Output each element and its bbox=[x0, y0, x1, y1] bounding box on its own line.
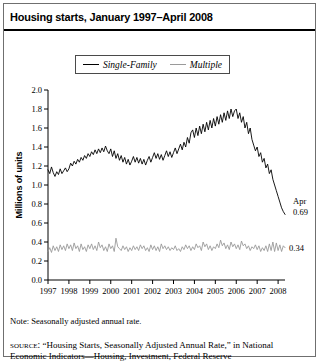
svg-text:0.4: 0.4 bbox=[31, 237, 42, 247]
svg-text:2006: 2006 bbox=[228, 286, 245, 296]
svg-text:2007: 2007 bbox=[249, 286, 266, 296]
title-block: Housing starts, January 1997–April 2008 bbox=[4, 4, 315, 29]
svg-text:1998: 1998 bbox=[60, 286, 77, 296]
chart-canvas: 0.00.20.40.60.81.01.21.41.61.82.01997199… bbox=[0, 84, 319, 314]
svg-text:0.2: 0.2 bbox=[31, 256, 42, 266]
svg-text:2000: 2000 bbox=[102, 286, 119, 296]
chart-source: source: “Housing Starts, Seasonally Adju… bbox=[10, 340, 310, 362]
svg-text:0.6: 0.6 bbox=[31, 218, 42, 228]
svg-text:1999: 1999 bbox=[81, 286, 98, 296]
source-text: “Housing Starts, Seasonally Adjusted Ann… bbox=[10, 340, 273, 361]
svg-text:2008: 2008 bbox=[270, 286, 287, 296]
svg-text:0.8: 0.8 bbox=[31, 199, 42, 209]
svg-text:2002: 2002 bbox=[144, 286, 161, 296]
svg-text:2003: 2003 bbox=[165, 286, 182, 296]
svg-text:2001: 2001 bbox=[123, 286, 140, 296]
svg-text:1.0: 1.0 bbox=[31, 180, 42, 190]
svg-text:2005: 2005 bbox=[207, 286, 224, 296]
svg-text:1997: 1997 bbox=[40, 286, 57, 296]
svg-text:0.34: 0.34 bbox=[289, 243, 305, 253]
svg-text:1.2: 1.2 bbox=[31, 161, 42, 171]
svg-text:2004: 2004 bbox=[186, 286, 204, 296]
svg-text:Apr: Apr bbox=[293, 196, 306, 206]
svg-text:0.69: 0.69 bbox=[293, 207, 308, 217]
legend-item-single-family: Single-Family bbox=[83, 60, 157, 70]
page-title: Housing starts, January 1997–April 2008 bbox=[10, 11, 300, 24]
legend-item-multiple: Multiple bbox=[170, 60, 222, 70]
svg-text:1.6: 1.6 bbox=[31, 123, 42, 133]
legend-label-single-family: Single-Family bbox=[103, 60, 157, 70]
svg-text:0.0: 0.0 bbox=[31, 275, 42, 285]
svg-text:2.0: 2.0 bbox=[31, 85, 42, 95]
svg-text:1.4: 1.4 bbox=[31, 142, 42, 152]
title-divider bbox=[4, 29, 315, 31]
legend-label-multiple: Multiple bbox=[190, 60, 222, 70]
chart-note: Note: Seasonally adjusted annual rate. bbox=[10, 316, 142, 326]
legend-swatch-multiple bbox=[170, 64, 186, 65]
plot-area: Millions of units 0.00.20.40.60.81.01.21… bbox=[0, 84, 319, 314]
svg-text:1.8: 1.8 bbox=[31, 104, 42, 114]
chart-legend: Single-Family Multiple bbox=[75, 55, 230, 74]
source-label: source: bbox=[10, 340, 40, 350]
legend-swatch-single-family bbox=[83, 64, 99, 65]
